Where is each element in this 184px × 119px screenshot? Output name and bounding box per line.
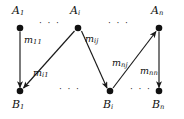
node-label-b1: B1 <box>12 99 25 111</box>
edge-label-mnj: mnj <box>112 58 128 69</box>
node-label-bi: Bi <box>103 99 113 111</box>
ellipsis-bottom-right: · · · <box>130 84 151 94</box>
edge-label-mij: mij <box>85 34 99 45</box>
ellipsis-top-left: · · · <box>39 18 60 28</box>
node-bn <box>156 88 163 95</box>
graph-figure: A1 Ai An B1 Bi Bn m11 mi1 mij mnj mnn · … <box>0 0 184 119</box>
node-label-ai: Ai <box>70 5 80 17</box>
ellipsis-top-right: · · · <box>108 18 129 28</box>
node-bi <box>107 88 114 95</box>
edge-label-mi1: mi1 <box>33 68 49 79</box>
node-ai <box>75 25 82 32</box>
node-an <box>156 25 163 32</box>
node-label-bn: Bn <box>152 99 165 111</box>
edge-label-mnn: mnn <box>140 66 158 77</box>
ellipsis-bottom-left: · · · <box>59 84 80 94</box>
edge-label-m11: m11 <box>24 35 42 46</box>
node-b1 <box>17 88 24 95</box>
node-label-an: An <box>151 5 163 17</box>
node-a1 <box>17 25 24 32</box>
node-label-a1: A1 <box>12 5 24 17</box>
